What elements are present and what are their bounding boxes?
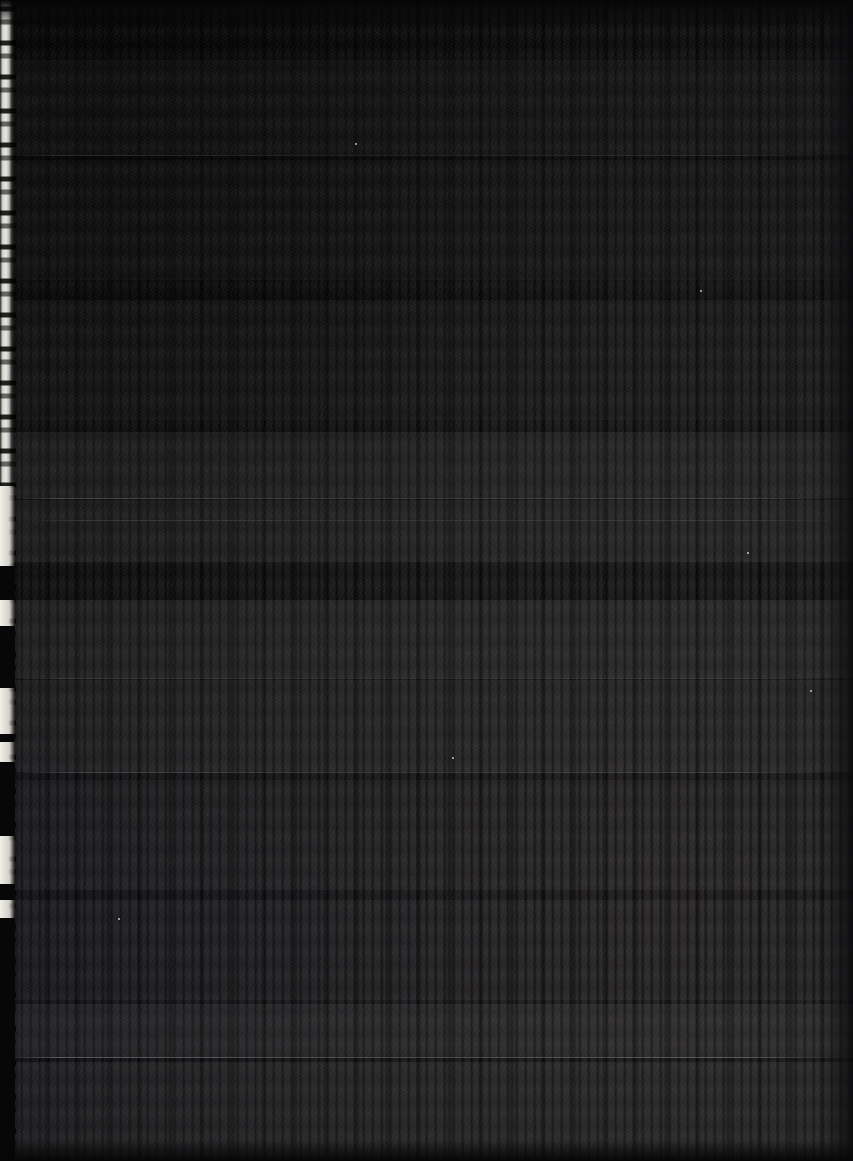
- dust-speck: [118, 918, 120, 920]
- page-edge-gap: [0, 626, 15, 688]
- page-edge-notch: [0, 688, 15, 734]
- separator-rule: [8, 155, 825, 156]
- right-edge-shadow: [823, 0, 853, 1161]
- page-edge-notch: [0, 600, 15, 626]
- dust-speck: [355, 143, 357, 145]
- page-edge-gap: [0, 918, 15, 1161]
- page-edge-notch: [0, 900, 15, 918]
- separator-rule: [6, 1057, 841, 1058]
- page-edge-gap: [0, 734, 15, 742]
- film-grain: [0, 0, 853, 1161]
- dust-speck: [700, 290, 702, 292]
- bottom-edge-shadow: [0, 1141, 853, 1161]
- page-edge-gap: [0, 762, 15, 836]
- dust-speck: [452, 757, 454, 759]
- page-edge-gap: [0, 566, 15, 600]
- dust-speck: [810, 690, 812, 692]
- separator-rule: [8, 498, 843, 499]
- page-edge-notch: [0, 742, 15, 762]
- separator-rule: [18, 772, 833, 773]
- page-edge-notch: [0, 836, 15, 884]
- top-edge-shadow: [0, 0, 853, 26]
- separator-rule: [12, 678, 839, 679]
- page-edge-gap: [0, 884, 15, 900]
- dust-speck: [747, 552, 749, 554]
- page-edge-notch: [0, 486, 15, 566]
- separator-rule: [30, 520, 843, 521]
- document-page: [0, 0, 853, 1161]
